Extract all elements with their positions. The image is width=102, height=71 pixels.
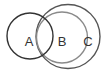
venn-diagram: A B C [0,0,102,71]
label-a: A [25,34,34,49]
label-b: B [58,34,67,49]
label-c: C [83,34,92,49]
